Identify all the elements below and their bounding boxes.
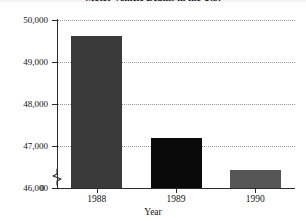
bar-series xyxy=(57,20,295,188)
x-tick-mark xyxy=(97,188,98,193)
x-tick-label-1989: 1989 xyxy=(167,194,186,204)
x-tick-label-1990: 1990 xyxy=(246,194,265,204)
x-tick-mark xyxy=(255,188,256,193)
x-tick-mark xyxy=(176,188,177,193)
bar-1988 xyxy=(71,36,122,188)
bar-1990 xyxy=(230,170,281,188)
x-tick-label-1988: 1988 xyxy=(87,194,106,204)
chart-title: Motor Vehicle Deaths in the U.S. xyxy=(0,0,306,3)
x-axis-title: Year xyxy=(0,207,306,217)
y-tick-label: 47,000 xyxy=(23,141,48,151)
bar-1989 xyxy=(151,138,202,188)
y-tick-label: 49,000 xyxy=(23,57,48,67)
bar-chart: Motor Vehicle Deaths in the U.S. 46,0004… xyxy=(0,0,306,221)
y-tick-label: 50,000 xyxy=(23,15,48,25)
y-axis-zero-label: 0 xyxy=(40,183,45,193)
y-tick-label: 48,000 xyxy=(23,99,48,109)
